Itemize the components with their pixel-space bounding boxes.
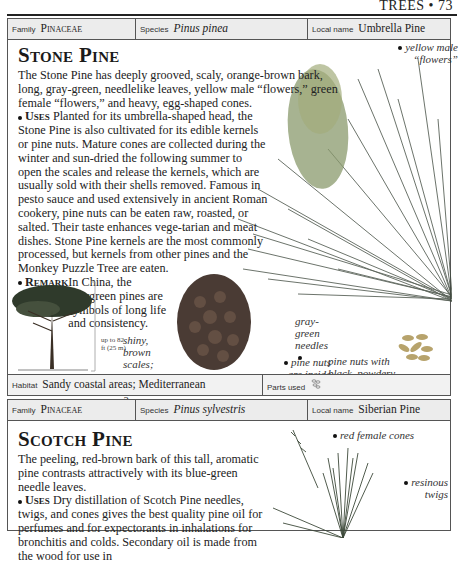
header-rule — [7, 14, 457, 16]
species-label: Species — [140, 25, 168, 34]
uses-paragraph: Uses Planted for its umbrella-shaped hea… — [18, 110, 268, 276]
local-name-cell: Local name Umbrella Pine — [308, 19, 450, 39]
meta-row: Family Pinaceae Species Pinus pinea Loca… — [8, 19, 450, 40]
entry-stone-pine: Family Pinaceae Species Pinus pinea Loca… — [7, 18, 451, 376]
uses-label: Uses — [25, 109, 50, 123]
local-name-label: Local name — [312, 25, 353, 34]
caption-male-flowers: yellow male “flowers” — [378, 41, 458, 65]
local-name-value: Umbrella Pine — [358, 22, 425, 34]
habitat-label: Habitat — [12, 381, 37, 390]
family-cell: Family Pinaceae — [8, 400, 136, 420]
entry-scotch-pine: Family Pinaceae Species Pinus sylvestris… — [7, 399, 451, 531]
family-label: Family — [12, 406, 36, 415]
local-name-cell: Local name Siberian Pine — [308, 400, 450, 420]
local-name-value: Siberian Pine — [358, 403, 420, 415]
species-cell: Species Pinus pinea — [136, 19, 308, 39]
scotch-pine-illustration — [273, 428, 413, 538]
uses-text: Dry distillation of Scotch Pine needles,… — [18, 493, 262, 562]
entry-title: Scotch Pine — [18, 427, 133, 452]
parts-used-label: Parts used — [267, 383, 305, 392]
family-cell: Family Pinaceae — [8, 19, 136, 39]
caption-resinous-twigs: resinous twigs — [398, 476, 448, 500]
local-name-label: Local name — [312, 406, 353, 415]
species-label: Species — [140, 406, 168, 415]
entry-body: The peeling, red-brown bark of this tall… — [18, 453, 270, 563]
parts-used-cell: Parts used — [263, 375, 450, 395]
uses-paragraph: Uses Dry distillation of Scotch Pine nee… — [18, 494, 270, 563]
intro-text: The peeling, red-brown bark of this tall… — [18, 453, 270, 494]
running-head: TREES • 73 — [379, 0, 453, 14]
habitat-cell: Habitat Sandy coastal areas; Mediterrane… — [8, 375, 263, 395]
meta-row: Family Pinaceae Species Pinus sylvestris… — [8, 400, 450, 421]
family-label: Family — [12, 25, 36, 34]
entry-footer: Habitat Sandy coastal areas; Mediterrane… — [7, 374, 451, 396]
caption-female-cones: red female cones — [330, 429, 440, 441]
species-value: Pinus pinea — [173, 22, 228, 34]
uses-text: Planted for its umbrella-shaped head, th… — [18, 109, 267, 275]
tree-silhouette-illustration — [8, 281, 96, 373]
seeds-icon — [310, 378, 322, 390]
height-bracket — [90, 281, 98, 373]
pine-cone-illustration — [175, 272, 253, 372]
species-value: Pinus sylvestris — [173, 403, 245, 415]
habitat-value: Sandy coastal areas; Mediterranean — [42, 378, 205, 390]
entry-title: Stone Pine — [18, 43, 120, 68]
uses-label: Uses — [25, 493, 50, 507]
species-cell: Species Pinus sylvestris — [136, 400, 308, 420]
family-value: Pinaceae — [41, 22, 83, 34]
family-value: Pinaceae — [41, 403, 83, 415]
intro-text: The Stone Pine has deeply grooved, scaly… — [18, 69, 348, 110]
